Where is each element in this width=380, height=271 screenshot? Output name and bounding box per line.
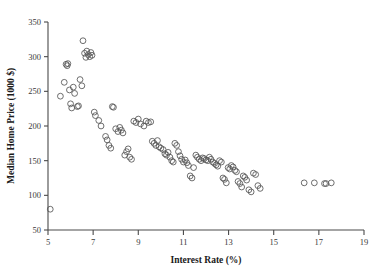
data-point: [234, 169, 240, 175]
x-tick-label: 5: [46, 237, 50, 247]
data-point: [72, 91, 78, 97]
data-point: [223, 180, 229, 186]
data-point: [104, 137, 110, 143]
data-point: [311, 180, 317, 186]
scatter-plot-figure: 501001502002503003505791113151719Interes…: [0, 0, 380, 271]
data-point: [239, 184, 245, 190]
data-point: [68, 101, 74, 107]
data-point: [301, 180, 307, 186]
x-tick-label: 17: [315, 237, 324, 247]
data-point: [98, 123, 104, 129]
data-point: [79, 83, 85, 89]
data-point: [80, 38, 86, 44]
data-point: [96, 118, 102, 124]
y-tick-label: 100: [28, 190, 41, 200]
y-tick-label: 200: [28, 121, 41, 131]
data-point: [232, 167, 238, 173]
x-tick-label: 7: [91, 237, 95, 247]
y-axis-title: Median Home Price (1000 $): [6, 68, 17, 184]
data-points-group: [47, 38, 334, 212]
data-point: [217, 158, 223, 164]
data-point: [103, 134, 109, 140]
x-tick-label: 15: [269, 237, 278, 247]
data-point: [222, 176, 228, 182]
y-tick-label: 250: [28, 86, 41, 96]
data-point: [170, 159, 176, 165]
data-point: [91, 109, 97, 115]
plot-canvas: 501001502002503003505791113151719Interes…: [0, 0, 380, 271]
y-tick-label: 150: [28, 156, 41, 166]
data-point: [58, 93, 64, 99]
data-point: [61, 79, 67, 85]
y-tick-label: 350: [28, 17, 41, 27]
y-tick-label: 300: [28, 52, 41, 62]
data-point: [77, 77, 83, 83]
x-tick-label: 19: [360, 237, 369, 247]
x-tick-label: 9: [136, 237, 140, 247]
data-point: [218, 159, 224, 165]
y-tick-label: 50: [33, 225, 42, 235]
x-axis-title: Interest Rate (%): [170, 255, 241, 266]
data-point: [169, 158, 175, 164]
data-point: [69, 105, 75, 111]
x-tick-label: 13: [224, 237, 233, 247]
data-point: [191, 165, 197, 171]
x-tick-label: 11: [179, 237, 187, 247]
